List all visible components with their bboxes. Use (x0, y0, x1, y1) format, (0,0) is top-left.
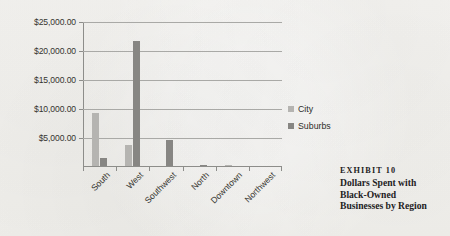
y-axis-tick (79, 138, 83, 139)
gridline (83, 22, 282, 23)
legend-item-suburbs[interactable]: Suburbs (288, 117, 358, 134)
exhibit-figure: $5,000.00$10,000.00$15,000.00$20,000.00$… (0, 0, 450, 236)
bar-chart: $5,000.00$10,000.00$15,000.00$20,000.00$… (0, 0, 320, 236)
y-axis-tick-label: $10,000.00 (34, 104, 76, 114)
y-axis-line (83, 22, 84, 167)
legend-label: City (298, 104, 313, 114)
legend-item-city[interactable]: City (288, 100, 358, 117)
y-axis-tick-label: $25,000.00 (34, 17, 76, 27)
legend-swatch-icon (288, 123, 294, 129)
y-axis-tick-label: $15,000.00 (34, 75, 76, 85)
caption-line: Businesses by Region (340, 200, 448, 212)
bar-north-suburbs (200, 165, 207, 166)
y-axis-tick (79, 109, 83, 110)
exhibit-caption: EXHIBIT 10 Dollars Spent with Black-Owne… (340, 166, 448, 212)
y-axis-tick-label: $20,000.00 (34, 46, 76, 56)
x-axis-category-label: North (189, 170, 211, 192)
y-axis-tick-label: $5,000.00 (39, 133, 76, 143)
bar-southwest-suburbs (166, 140, 173, 166)
bar-downtown-city (225, 165, 232, 166)
caption-line: Dollars Spent with (340, 177, 448, 189)
bar-south-suburbs (100, 158, 107, 166)
gridline (83, 51, 282, 52)
gridline (83, 138, 282, 139)
caption-line: Black-Owned (340, 189, 448, 201)
x-axis-category-label: Downtown (209, 170, 244, 205)
y-axis-tick (79, 51, 83, 52)
y-axis-tick (79, 80, 83, 81)
chart-legend: City Suburbs (288, 100, 358, 134)
caption-exhibit-number: EXHIBIT 10 (340, 166, 448, 175)
y-axis-labels: $5,000.00$10,000.00$15,000.00$20,000.00$… (0, 22, 76, 167)
plot-area (83, 22, 282, 167)
y-axis-tick (79, 22, 83, 23)
gridline (83, 109, 282, 110)
x-axis-labels: SouthWestSouthwestNorthDowntownNorthwest (83, 170, 282, 230)
bar-south-city (92, 113, 99, 166)
bar-west-suburbs (133, 41, 140, 166)
x-axis-category-label: South (89, 170, 112, 193)
x-axis-category-label: West (124, 170, 145, 191)
x-axis-category-label: Southwest (143, 170, 178, 205)
legend-label: Suburbs (298, 121, 331, 131)
x-axis-category-label: Northwest (243, 170, 277, 204)
bar-west-city (125, 145, 132, 166)
gridline (83, 80, 282, 81)
legend-swatch-icon (288, 106, 294, 112)
